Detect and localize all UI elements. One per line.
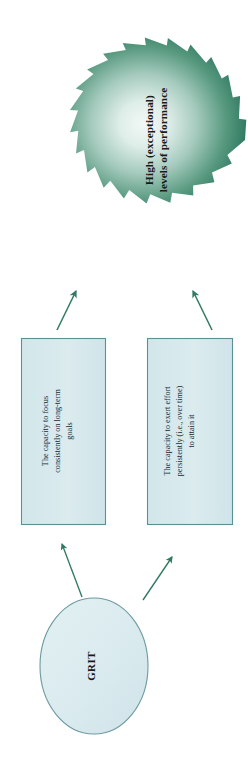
component-box-2-shape xyxy=(148,339,233,525)
source-ellipse-shape xyxy=(40,598,148,734)
grit-model-diagram xyxy=(0,0,248,757)
outcome-star-node[interactable] xyxy=(70,37,246,203)
arrow-ellipse-to-box2 xyxy=(143,557,172,600)
arrow-box1-to-star xyxy=(57,291,76,330)
arrow-box2-to-star xyxy=(193,291,212,330)
component-box-2-node[interactable] xyxy=(148,339,233,525)
star-burst-shape xyxy=(70,37,246,203)
arrow-ellipse-to-box1 xyxy=(62,544,82,597)
diagram-canvas: High (exceptional) levels of performance… xyxy=(0,0,248,757)
component-box-1-node[interactable] xyxy=(22,339,106,525)
component-box-1-shape xyxy=(22,339,106,525)
source-ellipse-node[interactable] xyxy=(40,598,148,734)
